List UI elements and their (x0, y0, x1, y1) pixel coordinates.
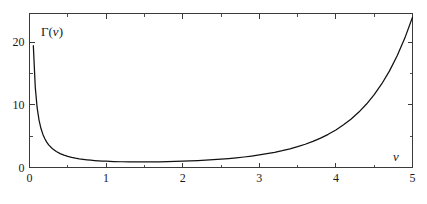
y-tick-label: 10 (13, 98, 25, 112)
y-axis-label-paren-close: ) (59, 24, 63, 39)
x-tick-label: 4 (333, 171, 339, 185)
x-tick-label: 1 (103, 171, 109, 185)
x-tick-label: 3 (256, 171, 262, 185)
x-tick-label: 2 (180, 171, 186, 185)
x-axis-label: v (393, 149, 399, 164)
y-axis-label: Γ(v) (41, 24, 63, 39)
y-tick-label: 20 (13, 35, 25, 49)
gamma-function-chart: 012345 01020 Γ(v) v (0, 0, 427, 204)
chart-background (0, 0, 427, 204)
y-tick-label: 0 (19, 161, 25, 175)
x-tick-label: 0 (27, 171, 33, 185)
x-tick-label: 5 (410, 171, 416, 185)
